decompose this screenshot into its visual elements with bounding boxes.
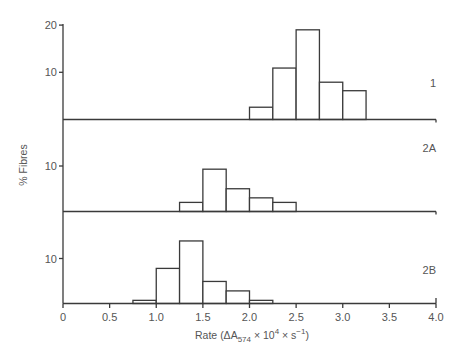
x-axis-title: Rate (ΔA574 × 104 × s−1) <box>195 327 309 344</box>
histogram-bar <box>250 198 273 212</box>
y-tick-label: 20 <box>45 19 57 31</box>
histogram-bar <box>273 202 296 211</box>
y-tick-label: 10 <box>45 160 57 172</box>
histogram-bar <box>343 91 366 120</box>
histogram-bar <box>273 68 296 119</box>
histogram-bar <box>180 202 203 211</box>
histogram-bar <box>203 281 226 303</box>
panel-label: 2A <box>423 142 437 154</box>
x-tick-label: 1.0 <box>149 311 164 323</box>
x-tick-label: 4.0 <box>428 311 443 323</box>
panel-label: 2B <box>423 264 436 276</box>
x-tick-label: 3.5 <box>382 311 397 323</box>
histogram-bar <box>203 169 226 211</box>
panel-2a: 102A <box>45 142 437 215</box>
histogram-bar <box>319 82 342 119</box>
x-tick-label: 2.5 <box>288 311 303 323</box>
x-tick-label: 0 <box>60 311 66 323</box>
histogram-bar <box>180 241 203 304</box>
x-tick-label: 0.5 <box>102 311 117 323</box>
y-axis-title: % Fibres <box>17 144 29 185</box>
histogram-bar <box>156 268 179 303</box>
x-tick-label: 1.5 <box>195 311 210 323</box>
panel-1: 10201 <box>45 19 436 122</box>
histogram-chart: 10201102A102B 00.51.01.52.02.53.03.54.0 … <box>0 0 464 362</box>
panels: 10201102A102B <box>45 19 437 303</box>
panel-label: 1 <box>430 77 436 89</box>
y-tick-label: 10 <box>45 66 57 78</box>
histogram-bar <box>226 189 249 212</box>
y-tick-label: 10 <box>45 253 57 265</box>
histogram-bar <box>226 291 249 304</box>
x-tick-label: 2.0 <box>242 311 257 323</box>
histogram-bar <box>296 30 319 120</box>
histogram-bar <box>250 107 273 119</box>
x-tick-label: 3.0 <box>335 311 350 323</box>
panel-2b: 102B <box>45 241 436 304</box>
